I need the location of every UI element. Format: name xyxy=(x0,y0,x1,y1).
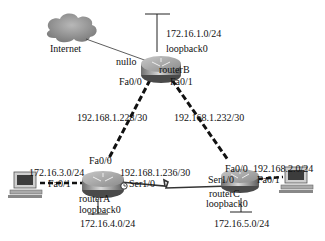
router-a-if-up: Fa0/0 xyxy=(89,155,112,166)
router-b-if-right: Fa0/1 xyxy=(170,76,193,87)
router-a-loopback-label: loopback0 xyxy=(79,204,121,215)
router-c-loopback-net: 172.16.5.0/24 xyxy=(214,218,269,229)
router-b-loopback-label: loopback0 xyxy=(166,43,208,54)
router-b-name: routerB xyxy=(159,64,190,75)
router-c-if-serial: Ser1/0 xyxy=(208,174,234,185)
router-a-if-serial: Ser1/0 xyxy=(129,178,155,189)
router-c-if-lan: Fa0/1 xyxy=(257,174,280,185)
internet-cloud-icon xyxy=(47,14,97,43)
router-c-loopback-label: loopback0 xyxy=(206,198,248,209)
internet-label: Internet xyxy=(50,43,81,54)
topology-canvas xyxy=(0,0,325,241)
router-a-loopback-net: 172.16.4.0/24 xyxy=(80,218,135,229)
router-a-lan-net: 172.16.3.0/24 xyxy=(29,167,84,178)
router-b-if-left: Fa0/0 xyxy=(119,76,142,87)
link-a-c-subnet: 192.168.1.236/30 xyxy=(120,167,190,178)
router-a-if-lan: Fa0/1 xyxy=(48,178,71,189)
clock-icon xyxy=(121,183,127,189)
router-b-if-internet: nullo xyxy=(116,56,137,67)
router-c-if-up: Fa0/0 xyxy=(225,163,248,174)
link-a-b-subnet: 192.168.1.228/30 xyxy=(77,112,147,123)
router-a-name: routerA xyxy=(79,193,110,204)
router-c-lan-net: 192.168.2.0/24 xyxy=(253,163,313,174)
link-b-c-subnet: 192.168.1.232/30 xyxy=(174,112,244,123)
router-b-loopback-net: 172.16.1.0/24 xyxy=(166,28,221,39)
